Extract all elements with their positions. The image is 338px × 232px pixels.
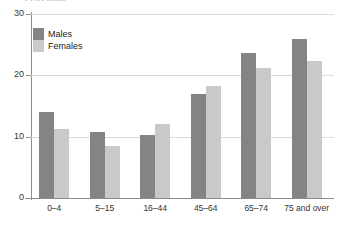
y-tick-label-30: 30: [2, 9, 24, 18]
bar-females-0: [54, 129, 69, 198]
y-tick-label-20: 20: [2, 70, 24, 79]
y-tick-label-0: 0: [2, 193, 24, 202]
gridline-20: [31, 75, 334, 76]
bar-males-0: [39, 112, 54, 198]
y-tick-30: [26, 14, 31, 15]
chart-axis-title-clipped: Percentage: [25, 0, 68, 1]
bar-females-3: [206, 86, 221, 198]
bar-males-4: [241, 53, 256, 198]
y-tick-10: [26, 137, 31, 138]
bar-males-3: [191, 94, 206, 198]
bar-chart: Percentage 0102030 0–45–1516–4445–6465–7…: [0, 0, 338, 232]
gridline-30: [31, 14, 334, 15]
legend-label-females: Females: [48, 40, 83, 52]
y-axis-line: [31, 12, 32, 200]
y-tick-20: [26, 75, 31, 76]
x-category-label-5: 75 and over: [267, 203, 338, 213]
y-tick-label-10: 10: [2, 132, 24, 141]
bar-females-1: [105, 146, 120, 198]
bar-males-1: [90, 132, 105, 198]
bar-males-2: [140, 135, 155, 198]
bar-females-5: [307, 61, 322, 198]
legend-swatch-females-icon: [33, 40, 44, 52]
bar-males-5: [292, 39, 307, 198]
y-axis-labels: 0102030: [0, 0, 24, 232]
bar-females-4: [256, 68, 271, 198]
y-tick-0: [26, 198, 31, 199]
x-axis-line: [25, 198, 334, 199]
gridline-10: [31, 137, 334, 138]
bar-females-2: [155, 124, 170, 198]
legend-label-males: Males: [48, 28, 72, 40]
